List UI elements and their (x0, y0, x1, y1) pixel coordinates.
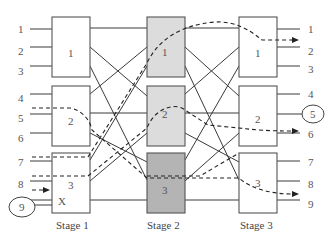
input-label-1: 1 (18, 23, 24, 35)
arrow-output-2-icon (292, 37, 299, 43)
stage1-switch-3-label: 3 (68, 179, 74, 191)
stage2-switch-3 (147, 153, 185, 213)
input-label-3: 3 (18, 65, 24, 77)
input-label-2: 2 (18, 45, 24, 57)
input-label-9: 9 (19, 201, 25, 213)
input-label-4: 4 (18, 92, 24, 104)
stage-3-label: Stage 3 (240, 219, 273, 231)
stage3-switch-2-label: 2 (255, 113, 261, 125)
input-label-6: 6 (18, 132, 24, 144)
input-label-7: 7 (18, 156, 24, 168)
stage3-switch-1-label: 1 (255, 47, 261, 59)
stage-labels: Stage 1 Stage 2 Stage 3 (56, 219, 273, 231)
stage1-switch-1-label: 1 (68, 47, 74, 59)
input-label-5: 5 (18, 112, 24, 124)
stage2-switch-3-label: 3 (162, 184, 168, 196)
stage1-switch-2-label: 2 (68, 115, 74, 127)
stage2-switch-2-label: 2 (162, 108, 168, 120)
stage-2-label: Stage 2 (147, 219, 180, 231)
output-wires (277, 29, 302, 200)
clos-network-diagram: 1 2 3 4 5 6 7 8 9 1 2 3 4 5 6 7 8 9 1 2 … (0, 0, 330, 240)
stage1-stage2-links (90, 28, 147, 200)
output-labels: 1 2 3 4 5 6 7 8 9 (308, 23, 316, 210)
input-wires (30, 29, 52, 200)
output-label-9: 9 (308, 198, 314, 210)
output-label-3: 3 (308, 63, 314, 75)
output-label-8: 8 (308, 178, 314, 190)
output-label-1: 1 (308, 23, 314, 35)
output-label-4: 4 (308, 88, 314, 100)
input-label-8: 8 (18, 178, 24, 190)
stage2-switch-1-label: 1 (162, 46, 168, 58)
output-label-5: 5 (310, 108, 316, 120)
stage3-switch-3-label: 3 (255, 177, 261, 189)
stage2-stage3-links (185, 28, 239, 200)
blocked-marker: X (58, 195, 66, 207)
stage-1-label: Stage 1 (56, 219, 89, 231)
arrow-input-9-icon (43, 187, 50, 193)
output-label-7: 7 (308, 156, 314, 168)
arrow-output-9-icon (292, 191, 299, 197)
output-label-6: 6 (308, 128, 314, 140)
input-labels: 1 2 3 4 5 6 7 8 9 (18, 23, 25, 213)
output-label-2: 2 (308, 45, 314, 57)
